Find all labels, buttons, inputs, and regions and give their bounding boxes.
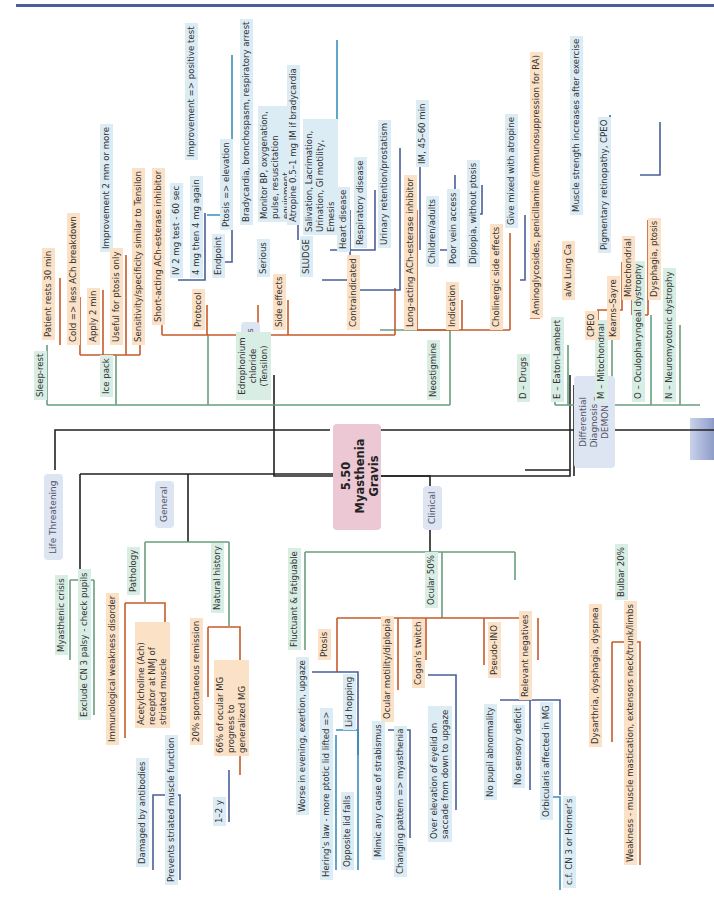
node-improvement-2mm: Improvement 2 mm or more [100,124,113,252]
node-ptosis: Ptosis [318,629,331,660]
node-sludge-detail: Salivation, Lacrimation, Urination, GI m… [303,119,338,235]
node-endpoint: Endpoint [212,234,225,278]
node-side-effects: Side effects [273,274,286,330]
node-lid-hopping: Lid hopping [343,674,356,730]
node-ice-pack: Ice pack [100,355,113,397]
node-no-sensory: No sensory deficit [512,705,525,788]
node-heart: Heart disease [337,187,350,252]
node-kearns: Kearns–Sayre [607,276,620,340]
node-respiratory: Respiratory disease [354,157,367,248]
node-cogan: Cogan's twitch [412,619,425,688]
node-children: Children/adults [426,196,439,267]
root-topic: 5.50 Myasthenia Gravis [333,424,381,530]
node-give-atropine: Give mixed with atropine [505,114,518,228]
node-diplopia: Diplopia, without ptosis [467,160,480,267]
category-life-threatening[interactable]: Life Threatening [44,474,63,560]
node-neostigmine: Neostigmine [427,340,440,400]
node-pseudo-ino: Pseudo-INO [488,622,501,678]
node-iv-test: IV 2 mg test - 60 sec [170,183,183,278]
node-years: 1–2 y [213,797,226,826]
node-cholinergic: Cholinergic side effects [490,224,503,330]
node-dysarthria: Dysarthria, dysphagia, dyspnea [589,604,602,747]
node-pigmentary: Pigmentary retinopathy, CPEO [598,117,611,253]
node-bulbar: Bulbar 20% [615,544,628,600]
node-motility: Ocular motility/diplopia [381,616,394,722]
node-bradycardia: Bradycardia, bronchospasm, respiratory a… [240,19,253,225]
node-fluctuant: Fluctuant & fatiguable [288,548,301,650]
node-prevents: Prevents striated muscle function [165,735,178,885]
node-indication: Indication [446,282,459,330]
node-cpeo: CPEO [585,311,598,340]
node-worse: Worse in evening, exertion, upgaze [296,657,309,815]
node-pathology: Pathology [127,547,140,595]
node-protocol: Protocol [192,289,205,330]
node-immuno: Immunological weakness disorder [106,593,119,745]
node-changing: Changing pattern => myasthenia [394,726,407,877]
node-exclude: Exclude CN 3 palsy - check pupils [78,570,91,721]
node-apply: Apply 2 min [87,288,100,345]
node-hering: Hering's law - more ptotic lid lifted => [320,708,333,880]
node-crisis: Myasthenic crisis [55,575,68,655]
node-serious: Serious [257,239,270,277]
node-orbicularis: Orbicularis affected in MG [540,702,553,820]
node-drugs: D – Drugs [517,354,530,402]
node-mimic: Mimic any cause of strabismus [372,721,385,860]
node-4mg: 4 mg then 4 mg again [190,176,203,278]
node-natural: Natural history [211,543,224,613]
node-ptosis-elevation: Ptosis => elevation [220,139,233,230]
node-eaton: E – Eaton-Lambert [551,317,564,402]
node-weakness: Weakness - muscle mastication, extensors… [624,601,637,865]
node-sensitivity: Sensitivity/specificity similar to Tensi… [132,168,145,345]
node-opposite: Opposite lid falls [341,792,354,870]
node-ach: Acetylcholine (Ach) receptor at NMJ of s… [135,622,170,728]
node-no-pupil: No pupil abnormality [484,704,497,800]
node-ocular: Ocular 50% [425,552,438,608]
node-over-elevation: Over elevation of eyelid on saccade from… [428,706,452,842]
node-urinary: Urinary retention/prostatism [378,120,391,248]
node-lung-ca: a/w Lung Ca [562,241,575,300]
node-mitochondrial: Mitochondrial [622,236,635,300]
node-cold: Cold => less ACh breakdown [67,213,80,345]
node-poor-vein: Poor vein access [447,189,460,267]
node-sludge: SLUDGE [300,236,313,277]
node-patient-rests: Patient rests 30 min [42,248,55,340]
node-muscle-strength: Muscle strength increases after exercise [570,36,583,215]
node-ocular-progress: 66% of ocular MG progress to generalized… [214,660,249,756]
category-clinical[interactable]: Clinical [423,486,442,530]
node-drugs-detail: Aminoglycosides, penicillamine (immunosu… [530,52,543,318]
node-useful-ptosis: Useful for ptosis only [110,248,123,345]
node-sleep-rest: Sleep-rest [34,351,47,400]
node-edrophonium: Edrophonium chloride (Tensilon) [236,332,271,400]
node-neuro: N – Neuromyotonic dystrophy [663,268,676,402]
node-atropine: Atropine 0.5–1 mg IM if bradycardia [287,65,300,225]
node-cf: c.f. CN 3 or Horner's [563,796,576,888]
category-general[interactable]: General [155,481,174,528]
node-remission: 20% spontaneous remission [190,618,203,745]
node-damaged: Damaged by antibodies [136,758,149,867]
node-short-acting: Short-acting ACh-esterase inhibitor [152,168,165,325]
node-im: IM, 45–60 min [416,100,429,167]
node-negatives: Relevant negatives [519,611,532,700]
node-improvement-positive: Improvement => positive test [185,23,198,160]
node-contraindicated: Contraindicated [347,255,360,330]
node-long-acting: Long-acting ACh-esterase inhibitor [404,175,417,330]
node-dysphagia-ptosis: Dysphagia, ptosis [648,218,661,300]
